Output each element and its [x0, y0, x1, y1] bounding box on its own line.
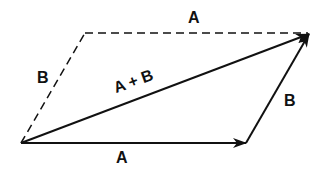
label-left-b: B	[37, 70, 49, 86]
diagram-canvas	[0, 0, 324, 179]
label-right-b: B	[284, 93, 296, 109]
vector-sum-arrow	[21, 34, 309, 143]
label-bottom-a: A	[116, 150, 128, 166]
vector-addition-diagram: A B A + B B A	[0, 0, 324, 179]
dashed-b-line	[21, 33, 85, 143]
label-top-a: A	[188, 10, 200, 26]
vector-b-arrow	[246, 34, 309, 143]
